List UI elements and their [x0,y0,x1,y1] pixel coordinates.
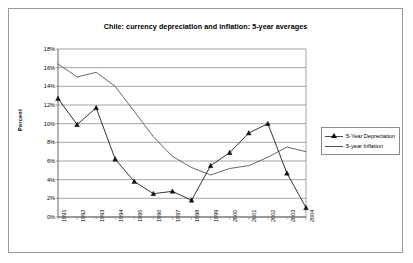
legend-item-inflation[interactable]: 5-year Inflation [324,141,397,151]
legend-label-depreciation: 5-Year Depreciation [344,133,395,139]
legend-label-inflation: 5-year Inflation [344,143,383,149]
chart-legend: 5-Year Depreciation 5-year Inflation [321,127,400,155]
chart-container: Chile: currency depreciation and inflati… [8,8,403,253]
legend-marker-triangle-icon [324,132,344,141]
legend-line-icon [324,142,344,151]
legend-item-depreciation[interactable]: 5-Year Depreciation [324,131,397,141]
